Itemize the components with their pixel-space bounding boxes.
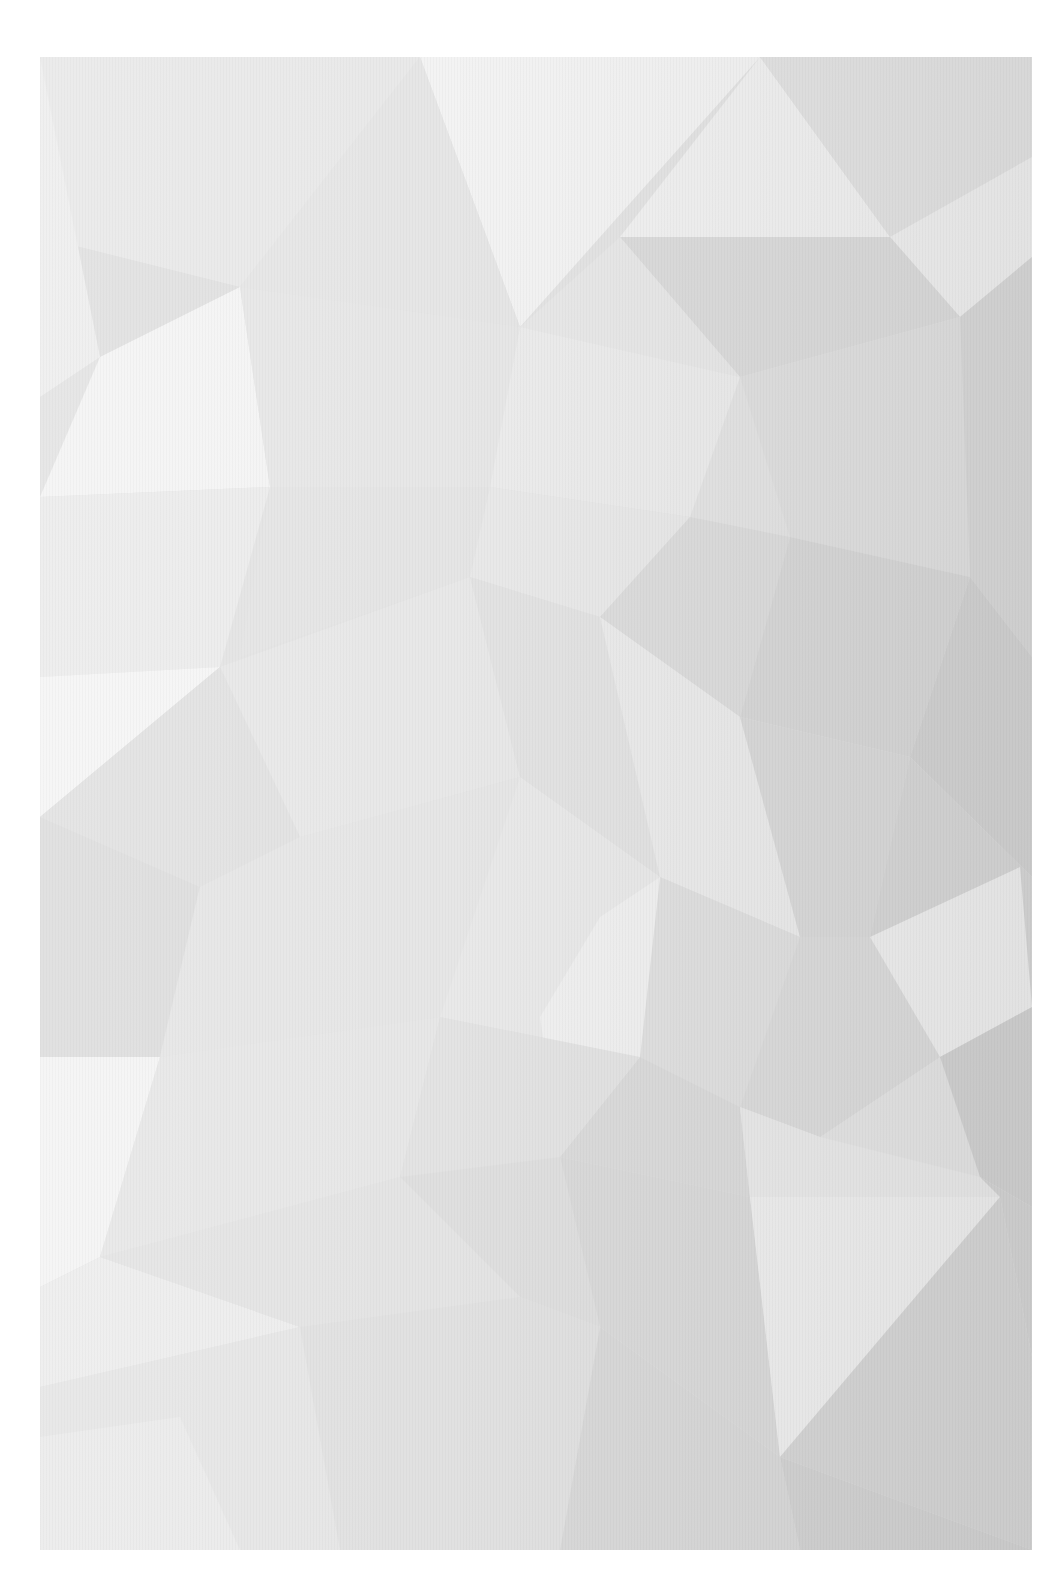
polygon-artwork [40,57,1032,1550]
low-poly-background [40,57,1032,1550]
